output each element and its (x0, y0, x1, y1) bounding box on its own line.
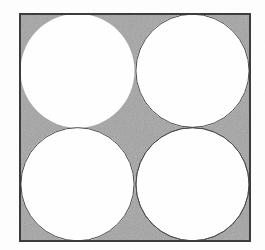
geometry-figure: Four congruent circles inscribed in a sq… (0, 0, 265, 250)
four-circles-in-square-svg (0, 0, 265, 250)
shaded-region-group (20, 14, 250, 241)
gray-interstitial-region (20, 14, 250, 241)
